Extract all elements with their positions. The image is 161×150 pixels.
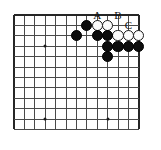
go-diagram-screenshot: ABC	[0, 0, 161, 150]
go-board[interactable]: ABC	[0, 0, 161, 150]
white-stone[interactable]	[112, 30, 123, 41]
star-point-2	[106, 118, 109, 121]
black-stone[interactable]	[102, 41, 113, 52]
black-stone[interactable]	[81, 20, 92, 31]
board-line-vertical-5	[66, 15, 67, 129]
board-line-vertical-4	[55, 15, 56, 129]
white-stone[interactable]	[133, 30, 144, 41]
black-stone[interactable]	[102, 30, 113, 41]
white-stone[interactable]	[102, 20, 113, 31]
marker-label-a[interactable]: A	[91, 10, 103, 21]
board-line-horizontal-5	[14, 67, 139, 68]
board-line-horizontal-10	[14, 119, 139, 120]
board-line-horizontal-7	[14, 87, 139, 88]
black-stone[interactable]	[123, 41, 134, 52]
board-line-horizontal-9	[14, 108, 139, 109]
board-line-vertical-2	[34, 15, 35, 129]
black-stone[interactable]	[102, 51, 113, 62]
marker-label-b[interactable]: B	[112, 10, 124, 21]
black-stone[interactable]	[92, 30, 103, 41]
marker-label-c[interactable]: C	[122, 20, 134, 31]
white-stone[interactable]	[123, 30, 134, 41]
black-stone[interactable]	[112, 41, 123, 52]
star-point-1	[44, 118, 47, 121]
board-line-horizontal-4	[14, 56, 139, 57]
black-stone[interactable]	[71, 30, 82, 41]
board-line-vertical-3	[45, 15, 46, 129]
board-line-horizontal-8	[14, 98, 139, 99]
board-line-vertical-1	[24, 15, 25, 129]
board-line-horizontal-11	[14, 129, 139, 130]
board-line-vertical-0	[13, 15, 15, 129]
star-point-0	[44, 45, 47, 48]
black-stone[interactable]	[133, 41, 144, 52]
board-line-vertical-7	[86, 15, 87, 129]
board-line-horizontal-1	[14, 25, 139, 26]
white-stone[interactable]	[92, 20, 103, 31]
board-line-horizontal-6	[14, 77, 139, 78]
